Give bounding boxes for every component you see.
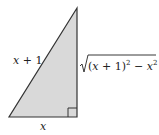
triangle-diagram: x + 1 x (x + 1)2 − x2 xyxy=(0,0,159,135)
svg-text:(x + 1)2 − x2: (x + 1)2 − x2 xyxy=(88,59,157,73)
height-label: (x + 1)2 − x2 xyxy=(80,55,157,73)
hypotenuse-label: x + 1 xyxy=(13,54,42,67)
base-label: x xyxy=(40,120,47,133)
